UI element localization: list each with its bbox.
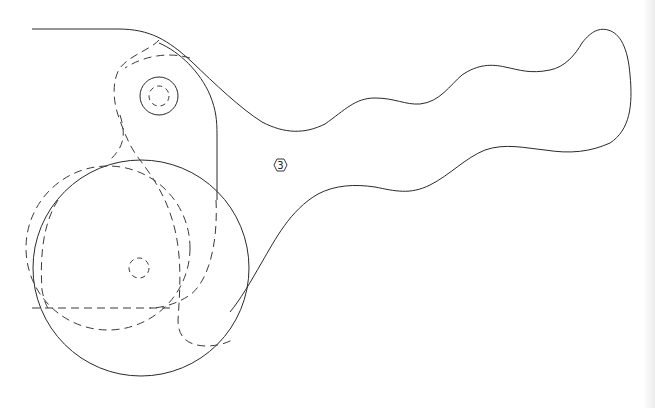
pivot-arm-outline (159, 43, 217, 200)
label-number: 3 (277, 160, 283, 171)
reference-label: 3 (274, 159, 287, 171)
pivot-hole-outer (140, 77, 178, 115)
top-edge-line (32, 29, 631, 312)
hidden-left-edge (41, 200, 58, 308)
pivot-hole-inner (149, 86, 169, 106)
patent-figure: 3 (0, 0, 655, 408)
wheel-hub (129, 258, 149, 278)
wheel-inner-circle (26, 166, 190, 330)
scan-edge-shading (643, 0, 655, 408)
hidden-arm-outline (114, 40, 232, 346)
hidden-arm-inner-outline (110, 55, 216, 308)
